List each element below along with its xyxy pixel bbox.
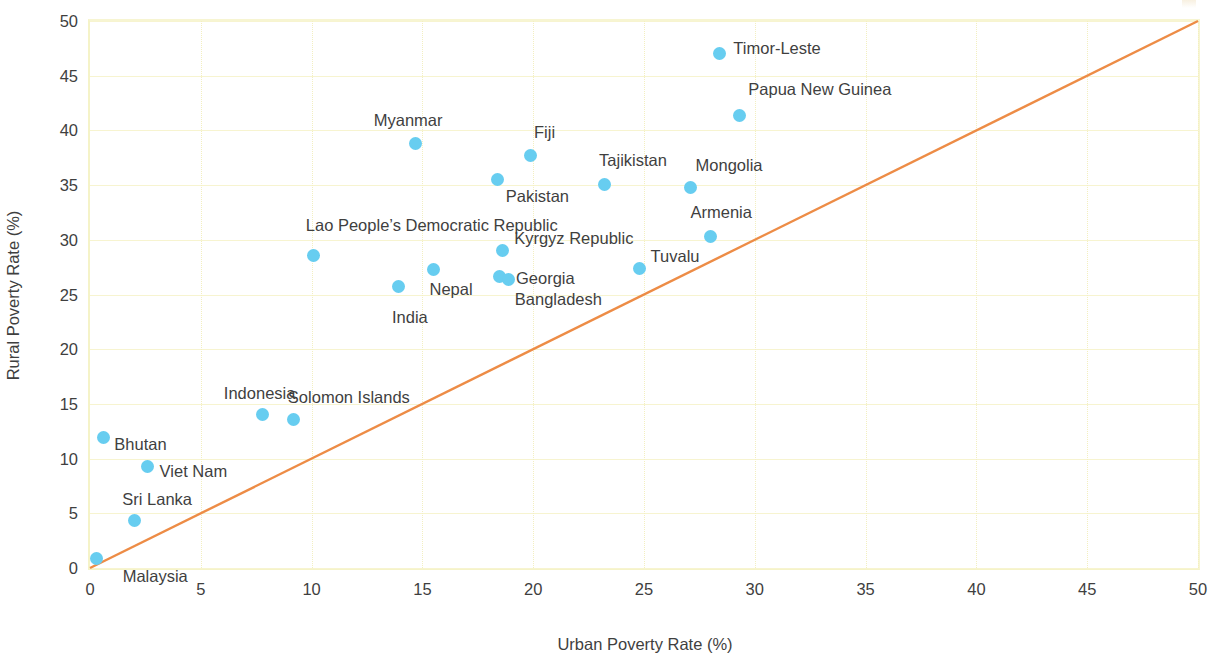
data-point[interactable] xyxy=(704,230,717,243)
gridline-vertical xyxy=(312,21,313,568)
data-point-label: Lao People’s Democratic Republic xyxy=(306,217,558,234)
y-tick-label: 40 xyxy=(60,122,78,139)
data-point[interactable] xyxy=(392,280,405,293)
gridline-vertical xyxy=(755,21,756,568)
data-point[interactable] xyxy=(733,109,746,122)
data-point-label: Tuvalu xyxy=(651,248,700,265)
data-point-label: Malaysia xyxy=(123,568,188,585)
y-tick-label: 0 xyxy=(69,560,78,577)
data-point-label: India xyxy=(392,309,428,326)
x-tick-label: 15 xyxy=(413,581,431,598)
plot-area: Timor-LestePapua New GuineaMyanmarFijiPa… xyxy=(88,19,1200,570)
y-axis-title: Rural Poverty Rate (%) xyxy=(2,0,26,590)
x-tick-label: 10 xyxy=(302,581,320,598)
gridline-horizontal xyxy=(90,568,1198,569)
x-tick-label: 20 xyxy=(524,581,542,598)
crop-artifact xyxy=(1182,0,1196,8)
y-tick-label: 25 xyxy=(60,286,78,303)
data-point-label: Viet Nam xyxy=(160,463,228,480)
gridline-vertical xyxy=(644,21,645,568)
data-point-label: Sri Lanka xyxy=(122,491,192,508)
y-tick-label: 45 xyxy=(60,67,78,84)
data-point-label: Papua New Guinea xyxy=(748,81,891,98)
data-point[interactable] xyxy=(141,460,154,473)
y-tick-label: 20 xyxy=(60,341,78,358)
x-tick-label: 30 xyxy=(746,581,764,598)
y-tick-label: 5 xyxy=(69,505,78,522)
x-tick-label: 0 xyxy=(85,581,94,598)
data-point[interactable] xyxy=(713,47,726,60)
y-tick-label: 30 xyxy=(60,232,78,249)
data-point[interactable] xyxy=(524,149,537,162)
x-axis-title: Urban Poverty Rate (%) xyxy=(0,636,1218,653)
gridline-vertical xyxy=(201,21,202,568)
x-tick-label: 45 xyxy=(1078,581,1096,598)
data-point-label: Tajikistan xyxy=(599,152,667,169)
data-point[interactable] xyxy=(409,137,422,150)
data-point[interactable] xyxy=(287,413,300,426)
data-point-label: Nepal xyxy=(429,281,472,298)
y-tick-label: 15 xyxy=(60,396,78,413)
data-point[interactable] xyxy=(128,514,141,527)
data-point-label: Timor-Leste xyxy=(733,40,820,57)
data-point-label: Mongolia xyxy=(696,157,763,174)
data-point-label: Pakistan xyxy=(506,188,569,205)
y-tick-label: 50 xyxy=(60,13,78,30)
data-point-label: Bangladesh xyxy=(515,291,602,308)
data-point[interactable] xyxy=(427,263,440,276)
x-tick-label: 40 xyxy=(967,581,985,598)
data-point-label: Indonesia xyxy=(224,385,296,402)
data-point[interactable] xyxy=(256,408,269,421)
data-point[interactable] xyxy=(502,273,515,286)
y-tick-label: 10 xyxy=(60,450,78,467)
data-point-label: Solomon Islands xyxy=(288,389,410,406)
data-point[interactable] xyxy=(633,262,646,275)
y-axis-title-text: Rural Poverty Rate (%) xyxy=(5,210,24,380)
data-point[interactable] xyxy=(97,431,110,444)
scatter-chart: Timor-LestePapua New GuineaMyanmarFijiPa… xyxy=(0,0,1218,664)
x-tick-label: 25 xyxy=(635,581,653,598)
gridline-vertical xyxy=(1198,21,1199,568)
x-axis-title-text: Urban Poverty Rate (%) xyxy=(557,635,732,653)
data-point-label: Armenia xyxy=(690,204,751,221)
data-point-label: Myanmar xyxy=(374,112,443,129)
data-point[interactable] xyxy=(598,178,611,191)
gridline-vertical xyxy=(866,21,867,568)
x-tick-label: 5 xyxy=(196,581,205,598)
y-tick-label: 35 xyxy=(60,177,78,194)
data-point-label: Georgia xyxy=(516,270,575,287)
gridline-vertical xyxy=(976,21,977,568)
data-point[interactable] xyxy=(307,249,320,262)
data-point[interactable] xyxy=(90,552,103,565)
data-point[interactable] xyxy=(684,181,697,194)
data-point-label: Fiji xyxy=(534,124,555,141)
x-tick-label: 50 xyxy=(1189,581,1207,598)
data-point-label: Bhutan xyxy=(114,436,166,453)
gridline-vertical xyxy=(1087,21,1088,568)
gridline-vertical xyxy=(422,21,423,568)
x-tick-label: 35 xyxy=(856,581,874,598)
data-point[interactable] xyxy=(496,244,509,257)
